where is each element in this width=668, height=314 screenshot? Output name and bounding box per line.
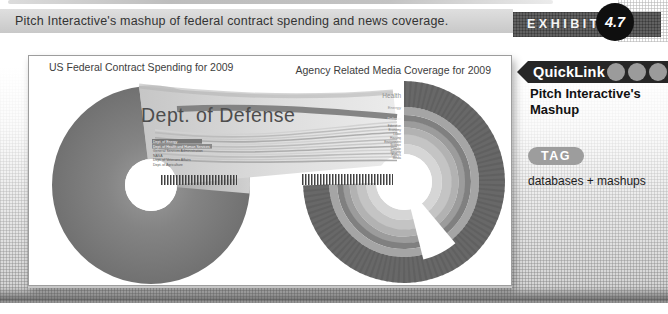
exhibit-badge-label: EXHIBIT — [513, 12, 661, 37]
tag-value: databases + mashups — [528, 174, 646, 188]
svg-text:Energy: Energy — [388, 105, 402, 110]
svg-text:Dept. of Agriculture: Dept. of Agriculture — [153, 163, 183, 167]
defense-segment-label: Dept. of Defense — [141, 104, 295, 126]
dot-icon — [607, 63, 625, 81]
exhibit-badge: EXHIBIT — [513, 12, 661, 37]
svg-text:Dept. of Energy: Dept. of Energy — [153, 140, 178, 144]
left-chart-title: US Federal Contract Spending for 2009 — [49, 61, 234, 73]
exhibit-header-bar: Pitch Interactive's mashup of federal co… — [0, 9, 513, 33]
exhibit-number: 4.7 — [605, 14, 625, 30]
quicklink-title-line1: Pitch Interactive's — [530, 86, 662, 102]
svg-text:Health: Health — [382, 92, 401, 99]
svg-text:Dept. of Health and Human Serv: Dept. of Health and Human Services — [153, 145, 210, 149]
svg-text:General Services Administratio: General Services Administration — [153, 149, 203, 153]
quicklink-title: Pitch Interactive's Mashup — [530, 86, 662, 117]
quicklink-badge: QuickLink — [517, 61, 668, 83]
exhibit-number-circle: 4.7 — [596, 3, 634, 41]
bottom-shade-band — [0, 287, 668, 303]
svg-text:NASA: NASA — [153, 154, 163, 158]
right-chart-title: Agency Related Media Coverage for 2009 — [295, 64, 491, 76]
tag-pill: TAG — [528, 147, 584, 165]
quicklink-dots — [607, 63, 667, 81]
quicklink-title-line2: Mashup — [530, 102, 662, 118]
svg-text:Dept. of Veterans Affairs: Dept. of Veterans Affairs — [153, 158, 191, 162]
top-rule — [8, 0, 553, 4]
right-tick-band — [301, 174, 393, 185]
left-tick-band — [161, 175, 237, 185]
dot-icon — [628, 63, 646, 81]
svg-text:Defense: Defense — [388, 117, 401, 121]
textbook-page: Pitch Interactive's mashup of federal co… — [0, 0, 668, 314]
svg-text:Media: Media — [393, 156, 402, 160]
figure-panel: US Federal Contract Spending for 2009 Ag… — [28, 55, 512, 286]
exhibit-caption: Pitch Interactive's mashup of federal co… — [0, 9, 513, 33]
quicklink-label: QuickLink — [533, 64, 605, 80]
mashup-visualization: US Federal Contract Spending for 2009 Ag… — [29, 56, 511, 285]
dot-icon — [649, 63, 667, 81]
